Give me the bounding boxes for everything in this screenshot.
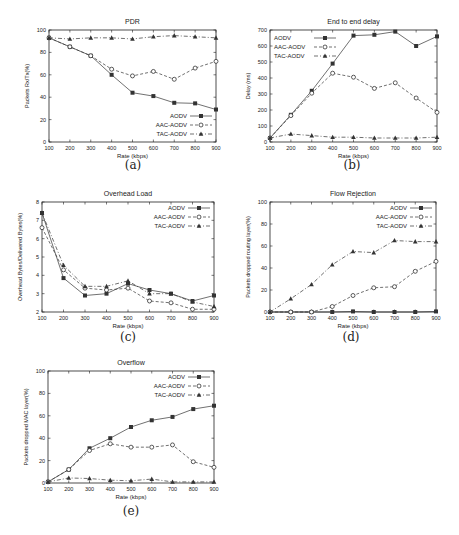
caption-e: (e): [111, 504, 151, 518]
square-marker-icon: [129, 425, 133, 429]
legend-label: AODV: [168, 374, 185, 380]
x-tick-label: 500: [126, 486, 135, 492]
x-tick-label: 800: [189, 486, 198, 492]
legend-label: AAC-AODV: [154, 383, 185, 389]
circle-marker-icon: [129, 445, 133, 449]
x-axis-label: Rate (kbps): [115, 494, 146, 500]
square-marker-icon: [108, 436, 112, 440]
x-tick-label: 900: [209, 486, 218, 492]
series-tac-aodv: [46, 475, 217, 483]
x-tick-label: 200: [64, 486, 73, 492]
chart-overflow: Overflow10020030040050060070080090002040…: [0, 0, 459, 535]
y-tick-label: 80: [39, 390, 45, 396]
square-marker-icon: [171, 415, 175, 419]
circle-marker-icon: [171, 443, 175, 447]
circle-marker-icon: [212, 465, 216, 469]
triangle-marker-icon: [87, 476, 92, 480]
circle-marker-icon: [108, 442, 112, 446]
y-tick-label: 100: [36, 368, 45, 374]
square-marker-icon: [212, 404, 216, 408]
square-marker-icon: [191, 407, 195, 411]
x-tick-label: 700: [168, 486, 177, 492]
x-tick-label: 100: [43, 486, 52, 492]
series-aodv: [46, 404, 216, 484]
triangle-marker-icon: [149, 477, 154, 481]
chart-svg-e: Overflow10020030040050060070080090002040…: [0, 0, 459, 535]
square-marker-icon: [150, 418, 154, 422]
y-tick-label: 40: [39, 435, 45, 441]
y-axis-label: Packets dropped MAC layer(%): [23, 388, 29, 465]
x-tick-label: 300: [85, 486, 94, 492]
x-tick-label: 600: [147, 486, 156, 492]
legend: AODVAAC-AODVTAC-AODV: [154, 374, 210, 398]
chart-title: Overflow: [117, 359, 146, 366]
circle-marker-icon: [197, 384, 201, 388]
triangle-marker-icon: [108, 478, 113, 482]
y-tick-label: 0: [42, 480, 45, 486]
y-tick-label: 60: [39, 413, 45, 419]
circle-marker-icon: [67, 468, 71, 472]
triangle-marker-icon: [66, 475, 71, 479]
circle-marker-icon: [191, 460, 195, 464]
y-tick-label: 20: [39, 458, 45, 464]
square-marker-icon: [197, 375, 201, 379]
circle-marker-icon: [150, 445, 154, 449]
series-aac-aodv: [46, 442, 216, 484]
legend-label: TAC-AODV: [154, 392, 185, 398]
circle-marker-icon: [88, 449, 92, 453]
x-tick-label: 400: [106, 486, 115, 492]
